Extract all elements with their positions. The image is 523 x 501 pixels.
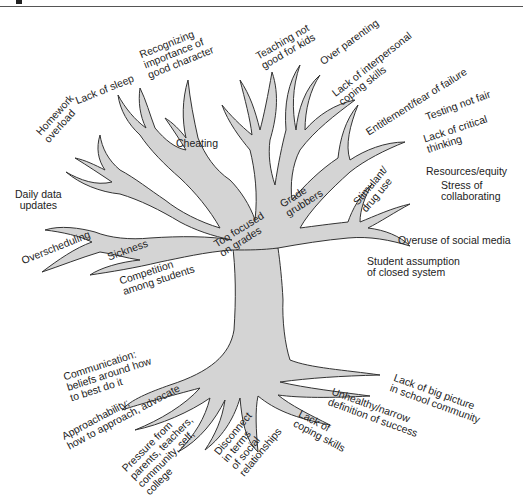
branch-label-cheating: Cheating xyxy=(176,138,218,149)
branch-label-closed-system: Student assumption of closed system xyxy=(367,256,460,278)
branch-label-daily-data-updates: Daily data updates xyxy=(15,189,62,211)
branch-label-resources-equity: Resources/equity xyxy=(426,166,507,177)
branch-label-stress-collaborating: Stress of collaborating xyxy=(441,180,501,202)
branch-label-overuse-social-media: Overuse of social media xyxy=(398,235,511,246)
